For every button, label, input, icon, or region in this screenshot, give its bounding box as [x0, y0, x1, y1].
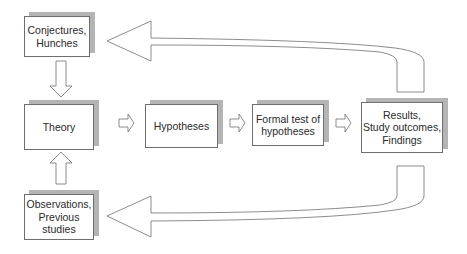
- theory-box: Theory: [24, 104, 94, 150]
- formal-test-box: Formal test of hypotheses: [252, 104, 324, 146]
- results-box: Results, Study outcomes, Findings: [361, 102, 443, 153]
- arrow-hypotheses-to-formal-test: [230, 114, 245, 132]
- arrow-formal-test-to-results: [336, 114, 351, 132]
- observations-box: Observations, Previous studies: [24, 194, 94, 240]
- arrow-theory-to-hypotheses: [119, 114, 134, 132]
- arrow-conjectures-to-theory: [50, 61, 72, 97]
- arrow-results-to-conjectures: [107, 21, 424, 92]
- arrow-results-to-observations: [107, 166, 424, 237]
- conjectures-box: Conjectures, Hunches: [24, 16, 90, 57]
- hypotheses-box: Hypotheses: [145, 104, 218, 148]
- arrow-observations-to-theory: [50, 152, 72, 184]
